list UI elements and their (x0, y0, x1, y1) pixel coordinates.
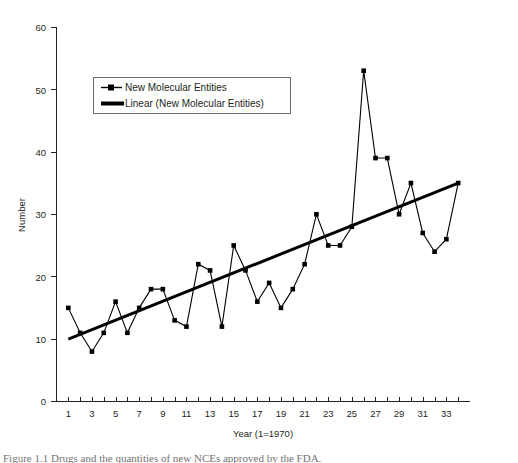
x-tick-label-9: 9 (160, 408, 165, 419)
y-tick-label-60: 60 (35, 22, 46, 33)
data-point (267, 281, 272, 286)
data-point (172, 318, 177, 323)
data-point (432, 249, 437, 254)
data-point (444, 237, 449, 242)
y-tick-label-0: 0 (41, 396, 46, 407)
data-point (420, 231, 425, 236)
data-point (78, 331, 83, 336)
data-point (196, 262, 201, 267)
x-tick-label-7: 7 (137, 408, 142, 419)
y-tick-label-20: 20 (35, 272, 46, 283)
y-tick-label-40: 40 (35, 147, 46, 158)
y-tick-label-30: 30 (35, 209, 46, 220)
x-tick-label-13: 13 (205, 408, 216, 419)
data-point (208, 268, 213, 273)
x-tick-label-17: 17 (252, 408, 263, 419)
data-point (161, 287, 166, 292)
data-point (231, 243, 236, 248)
x-axis: 13579111315171921232527293133 Year (1=19… (57, 397, 471, 440)
data-point (220, 324, 225, 329)
data-point (338, 243, 343, 248)
data-point (113, 299, 118, 304)
data-point (101, 331, 106, 336)
x-tick-label-11: 11 (182, 408, 192, 419)
data-point (184, 324, 189, 329)
x-tick-label-23: 23 (323, 408, 334, 419)
x-tick-label-21: 21 (299, 408, 310, 419)
figure-caption-strip: Figure 1.1 Drugs and the quantities of n… (0, 452, 518, 463)
data-point (137, 306, 142, 311)
data-point (373, 156, 378, 161)
data-point (290, 287, 295, 292)
x-tick-label-25: 25 (347, 408, 358, 419)
legend-swatch-marker-entities (108, 85, 114, 91)
x-tick-label-33: 33 (441, 408, 452, 419)
y-tick-label-50: 50 (35, 85, 46, 96)
data-point (397, 212, 402, 217)
data-point (243, 268, 248, 273)
x-tick-group (69, 397, 459, 402)
x-tick-label-27: 27 (370, 408, 381, 419)
x-tick-label-3: 3 (89, 408, 94, 419)
series-linear-trendline (68, 183, 458, 339)
data-point (409, 181, 414, 186)
x-tick-label-5: 5 (113, 408, 118, 419)
x-axis-title: Year (1=1970) (233, 428, 293, 439)
data-point (125, 331, 130, 336)
x-tick-label-19: 19 (276, 408, 287, 419)
data-point (279, 306, 284, 311)
data-point (350, 224, 355, 229)
data-point (255, 299, 260, 304)
figure-caption: Figure 1.1 Drugs and the quantities of n… (3, 452, 321, 463)
data-point (149, 287, 154, 292)
y-axis-title: Number (16, 198, 27, 232)
data-point (66, 306, 71, 311)
data-point (385, 156, 390, 161)
legend-label-trendline: Linear (New Molecular Entities) (125, 98, 264, 109)
data-point (456, 181, 461, 186)
x-tick-label-1: 1 (66, 408, 71, 419)
x-tick-label-29: 29 (394, 408, 405, 419)
data-point (90, 349, 95, 354)
data-point (326, 243, 331, 248)
legend-label-entities: New Molecular Entities (125, 82, 227, 93)
y-axis: 60 50 40 30 20 10 0 Number (16, 22, 57, 407)
x-tick-label-group: 13579111315171921232527293133 (66, 408, 452, 419)
data-point (314, 212, 319, 217)
chart-canvas: 60 50 40 30 20 10 0 Number 1357911131517… (0, 0, 518, 463)
figure-container: 60 50 40 30 20 10 0 Number 1357911131517… (0, 0, 518, 463)
x-tick-label-15: 15 (228, 408, 239, 419)
legend: New Molecular Entities Linear (New Molec… (94, 78, 291, 114)
data-point (361, 68, 366, 73)
y-tick-label-10: 10 (35, 334, 46, 345)
data-point (302, 262, 307, 267)
x-tick-label-31: 31 (417, 408, 428, 419)
